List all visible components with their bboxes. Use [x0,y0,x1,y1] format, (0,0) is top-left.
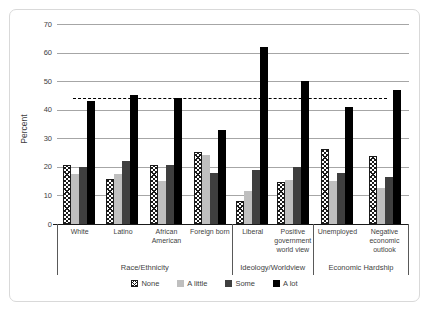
y-tick-label: 20 [10,162,52,171]
bar-none-unemployed [321,149,329,224]
bar-some-white [79,167,87,224]
bar-section-ideology-worldview [232,24,313,224]
section-label-economic-hardship: Economic Hardship [314,263,408,275]
category-labels: UnemployedNegative economic outlook [314,224,408,263]
bars-layer [57,24,409,224]
category-axis: WhiteLatinoAfrican AmericanForeign bornR… [57,224,409,275]
legend-item-a-lot: A lot [273,279,298,288]
section-label-race-ethnicity: Race/Ethnicity [58,263,232,275]
y-tick-label: 30 [10,134,52,143]
y-tick-label: 50 [10,77,52,86]
legend-item-a-little: A little [177,279,207,288]
y-tick-label: 70 [10,20,52,29]
legend-label-a-lot: A lot [283,279,298,288]
bar-group-african-american [144,24,188,224]
bar-a-lot-african-american [174,98,182,224]
y-tick-label: 0 [10,220,52,229]
y-tick-label: 60 [10,48,52,57]
bar-none-liberal [236,201,244,224]
bar-a-little-latino [114,174,122,224]
axis-section-race-ethnicity: WhiteLatinoAfrican AmericanForeign bornR… [57,224,232,275]
legend-swatch-none [131,280,138,287]
bar-section-economic-hardship [313,24,409,224]
category-label-latino: Latino [101,224,144,263]
y-tick-label: 40 [10,105,52,114]
bar-some-positive-government-world-view [293,167,301,224]
bar-group-white [57,24,101,224]
legend-label-a-little: A little [187,279,207,288]
bar-none-african-american [150,165,158,224]
category-label-african-american: African American [145,224,188,263]
bar-group-foreign-born [188,24,232,224]
y-tick-label: 10 [10,191,52,200]
bar-none-negative-economic-outlook [369,156,377,224]
bar-a-little-white [71,174,79,224]
bar-none-latino [106,179,114,224]
section-label-ideology-worldview: Ideology/Worldview [233,263,313,275]
category-label-negative-economic-outlook: Negative economic outlook [361,224,408,263]
bar-section-race-ethnicity [57,24,232,224]
reference-line [73,98,387,99]
bar-some-liberal [252,170,260,224]
bar-a-lot-liberal [260,47,268,224]
y-axis-tick-labels: 010203040506070 [10,24,52,224]
category-label-foreign-born: Foreign born [188,224,231,263]
bar-group-unemployed [313,24,361,224]
legend-item-some: Some [225,279,255,288]
chart-canvas: Percent 010203040506070 WhiteLatinoAfric… [0,0,429,309]
bar-none-foreign-born [194,152,202,224]
bar-some-unemployed [337,173,345,224]
bar-none-white [63,165,71,224]
axis-section-economic-hardship: UnemployedNegative economic outlookEcono… [313,224,409,275]
bar-some-foreign-born [210,173,218,224]
legend-swatch-a-lot [273,280,280,287]
bar-a-lot-negative-economic-outlook [393,90,401,224]
category-label-liberal: Liberal [233,224,273,263]
bar-none-positive-government-world-view [277,182,285,224]
bar-some-negative-economic-outlook [385,177,393,224]
category-label-positive-government-world-view: Positive government world view [273,224,313,263]
bar-some-latino [122,161,130,224]
legend: NoneA littleSomeA lot [10,279,419,288]
bar-group-liberal [232,24,273,224]
chart-frame: Percent 010203040506070 WhiteLatinoAfric… [9,9,420,302]
bar-a-little-african-american [158,181,166,224]
category-label-unemployed: Unemployed [314,224,361,263]
bar-a-lot-positive-government-world-view [301,81,309,224]
category-labels: LiberalPositive government world view [233,224,313,263]
bar-a-little-positive-government-world-view [285,180,293,224]
bar-some-african-american [166,165,174,224]
plot-area [57,24,409,224]
bar-a-little-unemployed [329,181,337,224]
bar-a-little-liberal [244,191,252,224]
bar-a-lot-unemployed [345,107,353,224]
axis-section-ideology-worldview: LiberalPositive government world viewIde… [232,224,313,275]
bar-group-positive-government-world-view [272,24,313,224]
bar-a-little-foreign-born [202,155,210,224]
bar-group-negative-economic-outlook [361,24,409,224]
legend-label-some: Some [235,279,255,288]
legend-label-none: None [141,279,159,288]
category-label-white: White [58,224,101,263]
legend-item-none: None [131,279,159,288]
bar-a-little-negative-economic-outlook [377,188,385,224]
legend-swatch-some [225,280,232,287]
bar-a-lot-white [87,101,95,224]
bar-a-lot-latino [130,95,138,224]
bar-group-latino [101,24,145,224]
bar-a-lot-foreign-born [218,130,226,224]
legend-swatch-a-little [177,280,184,287]
category-labels: WhiteLatinoAfrican AmericanForeign born [58,224,232,263]
